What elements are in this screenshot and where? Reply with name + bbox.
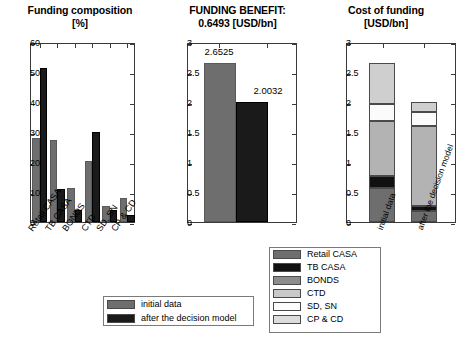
y-tick-mark	[130, 194, 134, 195]
chart3-title-line1: Cost of funding	[310, 4, 462, 17]
legend-item-ctd[interactable]: CTD	[270, 287, 380, 300]
x-tick-mark	[110, 44, 111, 48]
chart3-ytick-0: 0	[346, 219, 350, 228]
chart1-ytick-30: 30	[30, 129, 34, 138]
chart-funding-composition: Funding composition [%] 60 50 40 30 20 1…	[0, 0, 160, 290]
chart3-ytick-0-5: 0.5	[346, 189, 350, 198]
chart3-ytick-2-5: 2.5	[346, 69, 350, 78]
legend-label-sd-sn: SD, SN	[307, 302, 337, 311]
legend-swatch-sd-sn	[273, 302, 301, 311]
x-tick-mark	[75, 44, 76, 48]
stack-segment-bonds-initial	[369, 121, 395, 177]
legend-item-cp-cd[interactable]: CP & CD	[270, 313, 380, 326]
y-tick-mark	[292, 74, 296, 75]
legend-swatch-tb-casa	[273, 263, 301, 272]
chart3-title-line2: [USD/bn]	[310, 17, 462, 30]
y-tick-mark	[130, 104, 134, 105]
y-tick-mark	[451, 164, 455, 165]
y-tick-mark	[451, 74, 455, 75]
chart2-ytick-3: 3	[187, 39, 191, 48]
legend-label-retail-casa: Retail CASA	[307, 250, 357, 259]
chart1-ytick-50: 50	[30, 69, 34, 78]
x-tick-mark	[424, 44, 425, 48]
bar-initial-data	[204, 63, 236, 222]
chart-funding-benefit: FUNDING BENEFIT: 0.6493 [USD/bn] 3 2.5 2…	[155, 0, 315, 250]
chart1-title-line2: [%]	[0, 17, 160, 30]
chart1-ytick-40: 40	[30, 99, 34, 108]
legend-swatch-cp-cd	[273, 315, 301, 324]
legend-item-after-model[interactable]: after the decision model	[104, 311, 253, 325]
chart2-title: FUNDING BENEFIT: 0.6493 [USD/bn]	[155, 4, 320, 29]
chart2-ytick-1-5: 1.5	[187, 129, 191, 138]
y-tick-mark	[451, 104, 455, 105]
chart2-ytick-2: 2	[187, 99, 191, 108]
chart3-ytick-1: 1	[346, 159, 350, 168]
legend-item-retail-casa[interactable]: Retail CASA	[270, 248, 380, 261]
legend-item-sd-sn[interactable]: SD, SN	[270, 300, 380, 313]
y-tick-mark	[292, 134, 296, 135]
chart2-ytick-2-5: 2.5	[187, 69, 191, 78]
x-tick-mark	[127, 44, 128, 48]
chart1-plot-area	[30, 43, 135, 223]
legend-item-bonds[interactable]: BONDS	[270, 274, 380, 287]
y-tick-mark	[451, 134, 455, 135]
legend-swatch-initial-data	[107, 300, 135, 309]
stack-segment-sd-sn-initial	[369, 104, 395, 120]
chart3-ytick-1-5: 1.5	[346, 129, 350, 138]
legend-label-after-model: after the decision model	[141, 314, 237, 323]
legend-swatch-retail-casa	[273, 250, 301, 259]
x-tick-mark	[267, 44, 268, 48]
stack-segment-tb-casa-initial	[369, 176, 395, 187]
y-tick-mark	[130, 224, 134, 225]
chart1-title: Funding composition [%]	[0, 4, 160, 29]
chart1-title-line1: Funding composition	[0, 4, 160, 17]
y-tick-mark	[130, 74, 134, 75]
chart2-datalabel-after: 2.0032	[253, 86, 282, 96]
y-tick-mark	[451, 224, 455, 225]
chart2-ytick-0-5: 0.5	[187, 189, 191, 198]
y-tick-mark	[130, 44, 134, 45]
y-tick-mark	[130, 164, 134, 165]
y-tick-mark	[451, 194, 455, 195]
x-tick-mark	[57, 44, 58, 48]
bar-after-decision-model	[236, 102, 268, 222]
chart2-title-line2: 0.6493 [USD/bn]	[155, 17, 320, 30]
y-tick-mark	[292, 44, 296, 45]
chart2-plot-area	[187, 43, 297, 223]
legend-label-initial-data: initial data	[141, 300, 182, 309]
stack-segment-sd-sn-after	[411, 112, 437, 126]
y-tick-mark	[292, 164, 296, 165]
y-tick-mark	[451, 44, 455, 45]
x-tick-mark	[383, 44, 384, 48]
chart1-ytick-60: 60	[30, 39, 34, 48]
chart3-plot-area	[346, 43, 456, 223]
chart2-title-line1: FUNDING BENEFIT:	[155, 4, 320, 17]
stack-segment-cp-cd-after	[411, 102, 437, 112]
bar-ctd-after	[92, 132, 100, 222]
legend-funding-sources: Retail CASA TB CASA BONDS CTD SD, SN CP …	[269, 247, 381, 333]
chart3-ytick-3: 3	[346, 39, 350, 48]
chart1-ytick-10: 10	[30, 189, 34, 198]
legend-swatch-ctd	[273, 289, 301, 298]
y-tick-mark	[130, 134, 134, 135]
legend-item-initial-data[interactable]: initial data	[104, 297, 253, 311]
legend-label-tb-casa: TB CASA	[307, 263, 346, 272]
legend-label-cp-cd: CP & CD	[307, 315, 343, 324]
x-tick-mark	[92, 44, 93, 48]
chart1-ytick-20: 20	[30, 159, 34, 168]
legend-item-tb-casa[interactable]: TB CASA	[270, 261, 380, 274]
chart2-ytick-1: 1	[187, 159, 191, 168]
chart2-datalabel-initial: 2.6525	[204, 47, 233, 57]
y-tick-mark	[292, 194, 296, 195]
legend-comparison: initial data after the decision model	[103, 296, 254, 326]
legend-label-bonds: BONDS	[307, 276, 339, 285]
y-tick-mark	[292, 224, 296, 225]
y-tick-mark	[292, 104, 296, 105]
legend-swatch-bonds	[273, 276, 301, 285]
stack-segment-cp-cd-initial	[369, 63, 395, 104]
chart3-title: Cost of funding [USD/bn]	[310, 4, 462, 29]
legend-swatch-after-model	[107, 314, 135, 323]
chart2-ytick-0: 0	[187, 219, 191, 228]
chart3-ytick-2: 2	[346, 99, 350, 108]
legend-label-ctd: CTD	[307, 289, 326, 298]
